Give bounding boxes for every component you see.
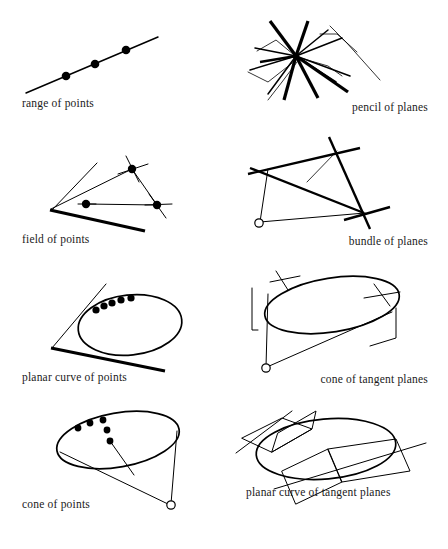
cone-point-2 bbox=[87, 420, 94, 427]
panel-planar-curve-of-points: planar curve of points bbox=[0, 268, 224, 405]
cone-tangent-generator-2 bbox=[267, 312, 392, 367]
planar-curve-point-1 bbox=[92, 306, 99, 313]
caption-field-of-points: field of points bbox=[22, 234, 90, 246]
panel-bundle-of-planes: bundle of planes bbox=[224, 134, 448, 271]
planar-curve-of-points-figure bbox=[0, 268, 224, 405]
pencil-edge-thick-3 bbox=[284, 56, 296, 100]
field-triangle-side-1 bbox=[51, 169, 132, 209]
tangent-line-left bbox=[236, 411, 292, 453]
cone-tangent-plane-strip-left bbox=[252, 288, 258, 330]
cone-tangent-marker-2b bbox=[374, 284, 390, 306]
cone-point-5 bbox=[107, 438, 114, 445]
caption-bundle-of-planes: bundle of planes bbox=[349, 236, 428, 248]
caption-range-of-points: range of points bbox=[22, 98, 94, 110]
panel-pencil-of-planes: pencil of planes bbox=[224, 4, 448, 141]
cone-tangent-plane-strip-right bbox=[370, 308, 396, 346]
panel-cone-of-tangent-planes: cone of tangent planes bbox=[224, 268, 448, 405]
planar-plane-edge-upper bbox=[52, 284, 106, 348]
range-point-2 bbox=[91, 60, 100, 69]
tangent-plane-left-wing bbox=[272, 411, 316, 452]
cone-point-3 bbox=[100, 417, 107, 424]
field-plane-edge-lower bbox=[50, 210, 145, 231]
bundle-of-planes-figure bbox=[224, 134, 448, 271]
field-point-3 bbox=[153, 201, 161, 209]
panel-planar-curve-of-tangent-planes: planar curve of tangent planes bbox=[224, 405, 448, 542]
cone-point-4 bbox=[104, 427, 111, 434]
cone-tangent-base-conic bbox=[261, 268, 404, 343]
planar-curve-point-3 bbox=[108, 299, 115, 306]
cone-points-base-conic bbox=[52, 403, 183, 478]
panel-range-of-points: range of points bbox=[0, 4, 224, 141]
cone-points-apex bbox=[167, 501, 175, 509]
tangent-line-right bbox=[274, 443, 426, 489]
pencil-axis-point bbox=[293, 53, 299, 59]
panel-cone-of-points: cone of points bbox=[0, 405, 224, 542]
caption-planar-curve-of-points: planar curve of points bbox=[22, 372, 127, 384]
field-point-2 bbox=[82, 200, 90, 208]
cone-tangent-marker-1a bbox=[270, 276, 300, 282]
range-point-3 bbox=[122, 46, 131, 55]
caption-planar-curve-of-tangent-planes: planar curve of tangent planes bbox=[246, 487, 391, 499]
cone-of-points-figure bbox=[0, 405, 224, 542]
planar-curve-of-tangent-planes-figure bbox=[224, 405, 448, 542]
range-point-1 bbox=[62, 72, 71, 81]
caption-cone-of-tangent-planes: cone of tangent planes bbox=[320, 374, 428, 386]
cone-points-generator-2 bbox=[171, 431, 177, 504]
field-of-points-figure bbox=[0, 134, 224, 271]
figure-sheet: range of points bbox=[0, 0, 448, 549]
planar-curve-point-5 bbox=[127, 294, 134, 301]
pencil-edge-thick-1 bbox=[270, 21, 296, 56]
cone-point-1 bbox=[75, 425, 82, 432]
caption-pencil-of-planes: pencil of planes bbox=[352, 102, 428, 114]
planar-curve-point-2 bbox=[100, 302, 107, 309]
cone-points-indicator bbox=[110, 441, 134, 475]
pencil-of-planes-figure bbox=[224, 4, 448, 141]
planar-curve-point-4 bbox=[117, 296, 124, 303]
panel-field-of-points: field of points bbox=[0, 134, 224, 271]
range-of-points-figure bbox=[0, 4, 224, 141]
pencil-plane-fold-5 bbox=[320, 34, 357, 52]
bundle-vertex bbox=[255, 219, 263, 227]
field-point-1 bbox=[128, 165, 136, 173]
caption-cone-of-points: cone of points bbox=[22, 499, 90, 511]
cone-tangent-apex bbox=[262, 364, 270, 372]
bundle-edge-1 bbox=[260, 169, 268, 222]
field-plane-edge-upper bbox=[52, 163, 97, 210]
